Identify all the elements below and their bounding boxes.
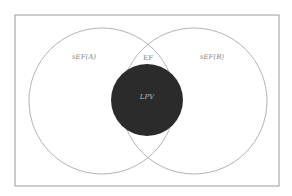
set-a-label: sEF(A) [72,54,96,61]
intersection-label: EF [143,55,153,62]
venn-diagram: sEF(A) sEF(B) EF LPV [0,0,292,196]
set-b-label: sEF(B) [200,54,224,61]
center-label: LPV [140,94,154,101]
